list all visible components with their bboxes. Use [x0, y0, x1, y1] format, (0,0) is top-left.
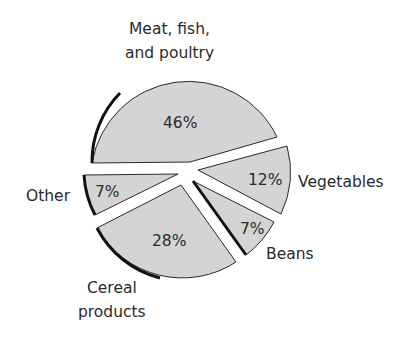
other-label: Other [26, 187, 71, 205]
vegetables-percent: 12% [248, 171, 282, 189]
meat-percent: 46% [163, 114, 197, 132]
cereal-percent: 28% [152, 232, 186, 250]
vegetables-label: Vegetables [298, 173, 384, 191]
beans-label: Beans [266, 245, 314, 263]
cereal-label-line2: products [78, 303, 146, 321]
beans-percent: 7% [240, 220, 265, 238]
other-percent: 7% [95, 183, 120, 201]
meat-label-line2: and poultry [125, 44, 214, 62]
pie-chart: 46% 12% 7% 28% 7% Meat, fish, and poultr… [0, 0, 416, 346]
cereal-label-line1: Cereal [87, 279, 137, 297]
meat-label-line1: Meat, fish, [129, 20, 210, 38]
